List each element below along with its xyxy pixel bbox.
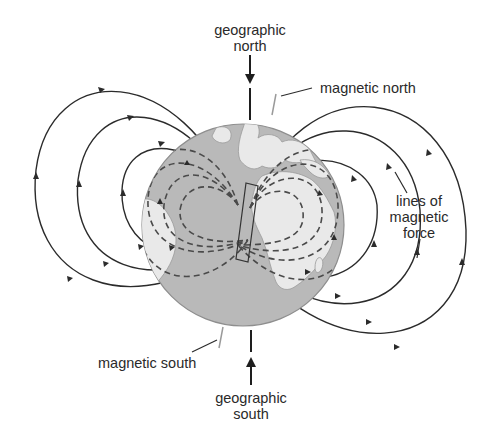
arrow-icon [120,189,126,196]
geographic-south-arrow-icon [246,357,256,367]
arrow-icon [366,319,372,325]
arrow-icon [394,344,400,350]
arrow-icon [426,149,432,156]
label-line: lines of [382,193,456,209]
label-lines-of-magnetic-force: lines of magnetic force [382,193,456,241]
arrowheads-left [33,87,165,282]
label-geographic-north: geographic north [205,22,295,54]
arrow-icon [67,276,73,282]
arrow-icon [127,115,134,121]
arrow-icon [76,180,82,187]
label-line: force [382,225,456,241]
label-line: north [205,38,295,54]
label-magnetic-south: magnetic south [98,355,196,371]
label-magnetic-north: magnetic north [320,80,416,96]
arrow-icon [33,172,39,179]
arrow-icon [386,163,392,170]
geographic-north-arrow-icon [245,74,255,84]
earth-globe [140,120,344,340]
label-line: south [206,406,296,422]
arrow-icon [414,248,420,255]
arrowheads-right [335,149,465,350]
label-line: geographic [205,22,295,38]
arrow-icon [335,293,341,299]
arrow-icon [103,261,109,267]
arrow-icon [351,175,357,182]
label-line: magnetic [382,209,456,225]
arrow-icon [158,141,165,147]
label-line: geographic [206,390,296,406]
label-geographic-south: geographic south [206,390,296,422]
arrow-icon [138,244,144,250]
